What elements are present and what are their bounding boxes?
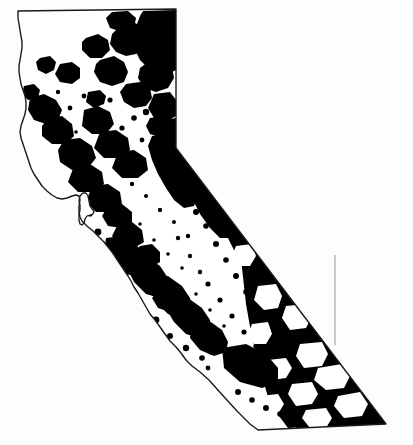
distribution-map-figure [0, 0, 413, 445]
california-map [0, 0, 413, 445]
